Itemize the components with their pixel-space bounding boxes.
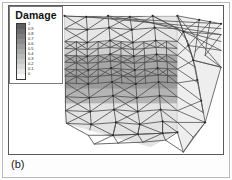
legend-swatch [17, 74, 25, 79]
legend-label-column: 10.90.80.70.60.50.40.30.20.10 [28, 21, 34, 80]
figure-panel: Damage 10.90.80.70.60.50.40.30.20.10 (b) [0, 0, 232, 180]
legend-colorbar: 10.90.80.70.60.50.40.30.20.10 [16, 23, 34, 80]
legend: Damage 10.90.80.70.60.50.40.30.20.10 [9, 6, 63, 84]
legend-tick-label: 0 [28, 71, 34, 76]
panel-label: (b) [11, 158, 24, 170]
legend-title: Damage [10, 9, 62, 21]
legend-swatch-column [16, 23, 26, 80]
